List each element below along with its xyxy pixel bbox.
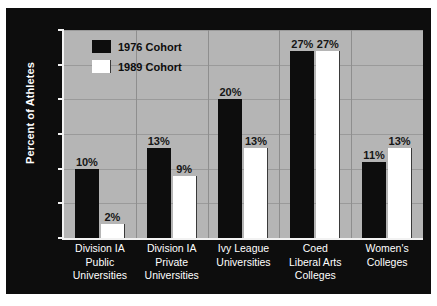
- bar-value-label: 27%: [317, 38, 339, 50]
- x-axis-label-line: Universities: [136, 269, 208, 283]
- x-axis-label-line: Universities: [208, 256, 280, 270]
- x-axis-label-line: Women's: [351, 242, 423, 256]
- x-axis-label-line: Public: [64, 256, 136, 270]
- legend-swatch-1989-icon: [92, 60, 111, 73]
- bar-value-label: 9%: [176, 163, 192, 175]
- x-axis-label-line: Division IA: [136, 242, 208, 256]
- bar-value-label: 13%: [148, 135, 170, 147]
- y-axis-title: Percent of Athletes: [21, 43, 39, 183]
- x-axis-label: Division IAPrivateUniversities: [136, 242, 208, 283]
- x-axis-label-line: Colleges: [279, 269, 351, 283]
- x-axis-label: Division IAPublicUniversities: [64, 242, 136, 283]
- x-axis-label-line: Ivy League: [208, 242, 280, 256]
- chart-figure: Percent of Athletes 05101520253010%2%13%…: [6, 8, 431, 294]
- legend-label-1989: 1989 Cohort: [118, 61, 182, 73]
- x-axis-label-line: Universities: [64, 269, 136, 283]
- x-axis-label-line: Colleges: [351, 256, 423, 270]
- bar[interactable]: 9%: [173, 176, 197, 238]
- x-axis-label: CoedLiberal ArtsColleges: [279, 242, 351, 283]
- bar-value-label: 10%: [76, 156, 98, 168]
- legend-swatch-1976-icon: [92, 40, 111, 53]
- x-axis-label: Women'sColleges: [351, 242, 423, 269]
- bar-value-label: 13%: [389, 135, 411, 147]
- bar[interactable]: 27%: [290, 51, 314, 238]
- bar[interactable]: 13%: [147, 148, 171, 238]
- x-axis-label-line: Private: [136, 256, 208, 270]
- legend-item-1989: 1989 Cohort: [92, 58, 212, 75]
- bar[interactable]: 13%: [388, 148, 412, 238]
- bar-value-label: 13%: [245, 135, 267, 147]
- x-axis-label: Ivy LeagueUniversities: [208, 242, 280, 269]
- bar[interactable]: 10%: [75, 169, 99, 238]
- x-axis-category-labels: Division IAPublicUniversitiesDivision IA…: [64, 242, 421, 294]
- bar[interactable]: 13%: [244, 148, 268, 238]
- bar[interactable]: 11%: [362, 162, 386, 238]
- bar-value-label: 20%: [219, 86, 241, 98]
- bar[interactable]: 27%: [316, 51, 340, 238]
- bar[interactable]: 20%: [218, 99, 242, 238]
- bar-value-label: 2%: [104, 211, 120, 223]
- x-axis-label-line: Liberal Arts: [279, 256, 351, 270]
- bar-value-label: 27%: [291, 38, 313, 50]
- x-axis-label-line: Division IA: [64, 242, 136, 256]
- bar-group: 20%13%: [208, 30, 280, 238]
- x-axis-label-line: Coed: [279, 242, 351, 256]
- legend-item-1976: 1976 Cohort: [92, 38, 212, 55]
- legend-label-1976: 1976 Cohort: [118, 41, 182, 53]
- chart-legend: 1976 Cohort 1989 Cohort: [92, 38, 212, 78]
- bar-value-label: 11%: [363, 149, 384, 161]
- bar-group: 27%27%: [279, 30, 351, 238]
- bar-group: 11%13%: [351, 30, 423, 238]
- bar[interactable]: 2%: [101, 224, 125, 238]
